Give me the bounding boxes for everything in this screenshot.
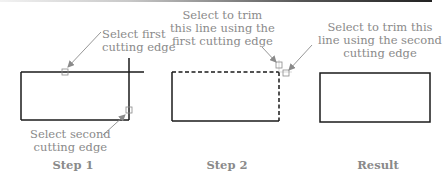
step2-geometry: [172, 45, 312, 121]
arrow-icon: [68, 32, 101, 67]
result-geometry: [320, 73, 430, 122]
pick-box-icon: [283, 70, 289, 76]
arrow-icon: [289, 45, 312, 70]
callout-select-second-cutting-edge: Select second cutting edge: [30, 128, 111, 154]
arrow-icon: [262, 47, 276, 62]
step2-label: Step 2: [207, 158, 248, 172]
callout-select-first-cutting-edge: Select first cutting edge: [102, 28, 176, 54]
step1-label: Step 1: [53, 158, 94, 172]
callout-trim-second: Select to trim this line using the secon…: [318, 21, 442, 60]
callout-trim-first: Select to trim this line using the first…: [170, 9, 275, 48]
result-label: Result: [357, 158, 398, 172]
